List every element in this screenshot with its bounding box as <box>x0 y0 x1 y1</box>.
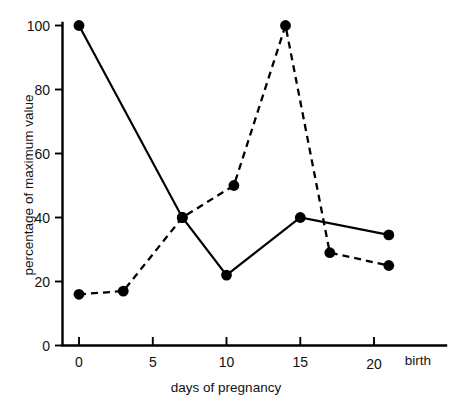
line-chart: 0 20 40 60 80 100 0 5 10 15 20 birth day… <box>0 0 454 410</box>
data-point <box>221 270 232 281</box>
x-tick-label: 20 <box>366 356 382 372</box>
y-axis-title: percentage of maximum value <box>21 95 36 276</box>
data-point <box>118 286 129 297</box>
data-point <box>295 212 306 223</box>
y-tick-label: 80 <box>34 82 50 98</box>
series-dashed-markers <box>74 20 395 300</box>
data-point <box>280 20 291 31</box>
data-point <box>229 180 240 191</box>
data-point <box>177 212 188 223</box>
y-tick-label: 60 <box>34 146 50 162</box>
x-tick-label: 5 <box>149 354 157 370</box>
x-tick-marks <box>79 337 374 346</box>
data-point <box>74 20 85 31</box>
series-dashed-line <box>79 26 389 295</box>
series-solid-markers <box>74 20 395 280</box>
y-tick-label: 40 <box>34 210 50 226</box>
data-point <box>383 260 394 271</box>
x-tick-label: 10 <box>219 354 235 370</box>
y-tick-label: 100 <box>27 18 51 34</box>
x-axis-title: days of pregnancy <box>171 380 282 395</box>
x-tick-label: 15 <box>293 354 309 370</box>
chart-figure: 0 20 40 60 80 100 0 5 10 15 20 birth day… <box>0 0 454 410</box>
axis-frame <box>63 23 447 346</box>
x-tick-labels: 0 5 10 15 20 <box>75 354 382 372</box>
x-tick-label: 0 <box>75 354 83 370</box>
data-point <box>74 289 85 300</box>
data-point <box>383 230 394 241</box>
y-tick-label: 0 <box>42 338 50 354</box>
y-tick-label: 20 <box>34 274 50 290</box>
x-axis-end-label: birth <box>405 353 431 368</box>
series-solid-line <box>79 26 389 276</box>
data-point <box>324 247 335 258</box>
